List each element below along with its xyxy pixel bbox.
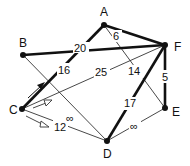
node-label-F: F — [174, 40, 181, 54]
node-B — [20, 52, 26, 58]
graph-diagram: 6 20 16 25 14 5 17 ∞ 12 ∞ A B C D E F — [0, 0, 190, 166]
node-label-C: C — [9, 103, 18, 117]
node-C — [19, 106, 25, 112]
weight-C-D: 12 — [54, 121, 66, 133]
node-D — [104, 138, 110, 144]
node-label-A: A — [100, 5, 108, 19]
node-E — [162, 105, 168, 111]
weight-A-E: 14 — [128, 65, 140, 77]
arrow-hollow-icon — [33, 100, 52, 108]
weight-B-D: ∞ — [66, 112, 74, 124]
node-label-B: B — [19, 36, 27, 50]
weight-D-E: ∞ — [130, 120, 138, 132]
weight-F-E: 5 — [162, 71, 168, 83]
weight-A-F: 6 — [113, 30, 119, 42]
weight-F-D: 17 — [124, 97, 136, 109]
node-F — [162, 42, 168, 48]
weight-C-F: 25 — [95, 66, 107, 78]
node-label-E: E — [172, 105, 180, 119]
node-label-D: D — [103, 147, 112, 161]
node-A — [101, 22, 107, 28]
weight-B-F: 20 — [74, 42, 86, 54]
edge-B-F — [23, 45, 165, 55]
weight-C-A: 16 — [58, 64, 70, 76]
